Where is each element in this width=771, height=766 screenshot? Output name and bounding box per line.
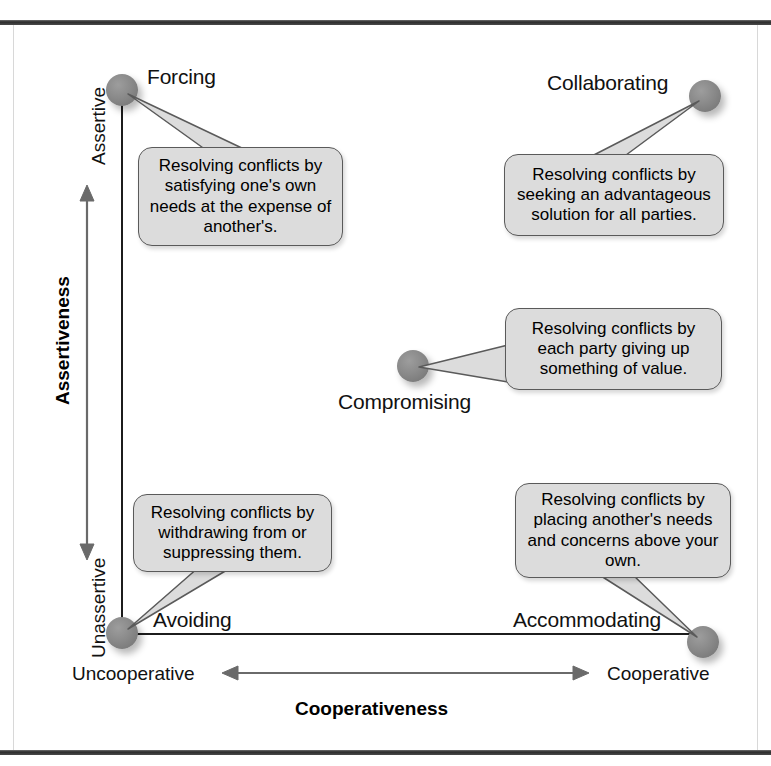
data-point-accommodating[interactable] xyxy=(687,626,719,658)
callout-forcing: Resolving conflicts by satisfying one's … xyxy=(138,147,343,246)
axis-line-horizontal xyxy=(121,633,704,635)
label-accommodating: Accommodating xyxy=(513,608,661,632)
data-point-compromising[interactable] xyxy=(397,350,429,382)
y-axis-scale-arrow xyxy=(78,185,96,560)
x-axis-title: Cooperativeness xyxy=(295,698,448,720)
data-point-forcing[interactable] xyxy=(106,74,138,106)
y-axis-high-label: Assertive xyxy=(88,87,110,165)
callout-avoiding: Resolving conflicts by withdrawing from … xyxy=(133,494,332,572)
data-point-avoiding[interactable] xyxy=(106,617,138,649)
label-collaborating: Collaborating xyxy=(547,71,668,95)
y-axis-low-label: Unassertive xyxy=(88,558,110,658)
label-avoiding: Avoiding xyxy=(153,608,232,632)
x-axis-high-label: Cooperative xyxy=(607,663,709,685)
conflict-handling-styles-figure: Forcing Collaborating Compromising Avoid… xyxy=(0,0,771,766)
leader-forcing xyxy=(128,94,246,150)
label-compromising: Compromising xyxy=(338,390,471,414)
callout-collaborating: Resolving conflicts by seeking an advant… xyxy=(504,154,724,236)
axis-line-vertical xyxy=(121,90,123,635)
page-rule-right xyxy=(757,25,758,750)
callout-accommodating: Resolving conflicts by placing another's… xyxy=(515,483,731,578)
page-rule-bottom xyxy=(0,750,771,755)
y-axis-title: Assertiveness xyxy=(52,276,74,405)
label-forcing: Forcing xyxy=(147,65,216,89)
page-rule-left xyxy=(13,25,14,750)
page-rule-top xyxy=(0,20,771,25)
leader-collaborating xyxy=(588,101,699,158)
x-axis-low-label: Uncooperative xyxy=(72,663,195,685)
callout-compromising: Resolving conflicts by each party giving… xyxy=(505,308,722,390)
leader-compromising xyxy=(419,345,508,382)
data-point-collaborating[interactable] xyxy=(689,80,721,112)
x-axis-scale-arrow xyxy=(222,664,589,682)
